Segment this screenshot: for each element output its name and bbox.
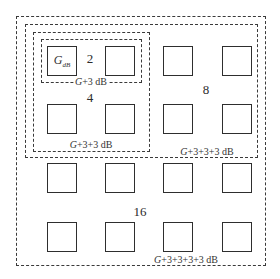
antenna-element-r1-c2 [105,46,135,76]
gain-value: +3+3+3 dB [188,146,234,157]
array-gain-diagram: GdB 2 4 8 16 G+3 dB G+3+3 dB G+3+3+3 dB … [0,0,280,279]
group-4-count: 4 [87,90,94,106]
group-16-count: 16 [134,204,147,220]
gain-symbol: G [54,53,63,67]
antenna-element-r3-c2 [105,163,135,193]
antenna-element-r1-c4 [222,46,252,76]
group-8-gain-label: G+3+3+3 dB [179,147,234,157]
antenna-element-r3-c1 [47,163,77,193]
antenna-element-r2-c4 [222,104,252,134]
gain-value: +3+3 dB [77,139,112,150]
antenna-element-r4-c1 [47,222,77,252]
antenna-element-r2-c2 [105,104,135,134]
gain-value: +3+3+3+3 dB [161,254,218,265]
element-gain-label: GdB [54,53,70,69]
antenna-element-r4-c3 [163,222,193,252]
antenna-element-r4-c4 [222,222,252,252]
antenna-element-r2-c3 [163,104,193,134]
gain-value: +3 dB [82,76,107,87]
antenna-element-r3-c4 [222,163,252,193]
group-4-gain-label: G+3+3 dB [69,140,114,150]
gain-unit-subscript: dB [62,61,70,69]
antenna-element-r3-c3 [163,163,193,193]
antenna-element-r4-c2 [105,222,135,252]
group-8-count: 8 [203,82,210,98]
group-16-gain-label: G+3+3+3+3 dB [153,255,219,265]
group-2-count: 2 [87,51,94,67]
group-2-gain-label: G+3 dB [74,77,108,87]
antenna-element-r1-c3 [163,46,193,76]
antenna-element-r2-c1 [47,104,77,134]
